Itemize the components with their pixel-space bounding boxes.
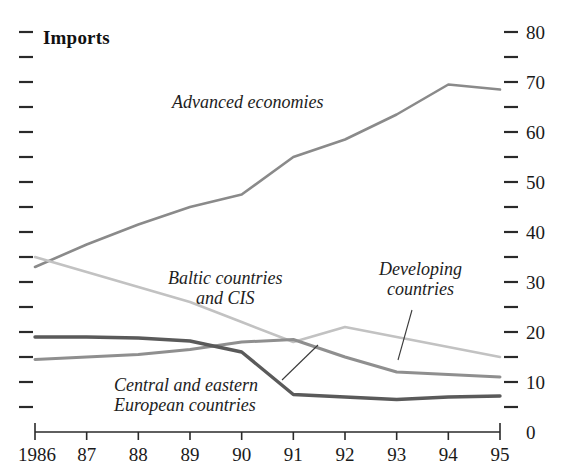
x-tick-label: 93	[387, 444, 406, 465]
x-tick-label: 92	[336, 444, 355, 465]
x-tick-label: 88	[129, 444, 148, 465]
y-tick-label: 10	[526, 372, 545, 393]
y-tick-label: 80	[526, 22, 545, 43]
leader-line	[282, 345, 318, 380]
y-tick-label: 30	[526, 272, 545, 293]
series-annotation-label: Advanced economies	[172, 92, 323, 112]
y-tick-label: 70	[526, 72, 545, 93]
chart-plot-area: 010203040506070801986878889909192939495	[0, 0, 586, 470]
x-tick-label: 95	[491, 444, 510, 465]
y-tick-label: 20	[526, 322, 545, 343]
series-line	[35, 337, 500, 400]
series-annotation-label: Baltic countries and CIS	[168, 268, 282, 308]
x-tick-label: 94	[439, 444, 459, 465]
series-annotation-label: Central and eastern European countries	[114, 375, 258, 415]
x-tick-label: 1986	[18, 444, 56, 465]
x-tick-label: 87	[77, 444, 96, 465]
x-tick-label: 91	[284, 444, 303, 465]
tick-labels: 010203040506070801986878889909192939495	[18, 22, 545, 465]
leader-line	[398, 310, 412, 360]
x-tick-label: 89	[181, 444, 200, 465]
y-tick-label: 40	[526, 222, 545, 243]
y-tick-label: 60	[526, 122, 545, 143]
y-tick-label: 50	[526, 172, 545, 193]
series-annotation-label: Developing countries	[379, 259, 462, 299]
y-tick-label: 0	[526, 422, 536, 443]
x-tick-label: 90	[232, 444, 251, 465]
imports-line-chart: Imports 01020304050607080198687888990919…	[0, 0, 586, 470]
data-series	[35, 85, 500, 400]
